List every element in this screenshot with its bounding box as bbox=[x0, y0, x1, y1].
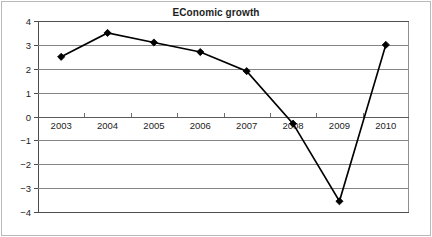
y-axis-label: 2 bbox=[26, 63, 31, 74]
y-axis-label: −4 bbox=[20, 207, 31, 218]
y-axis-label: −3 bbox=[20, 183, 31, 194]
data-point-2010 bbox=[382, 41, 389, 48]
series-line bbox=[61, 33, 386, 201]
y-axis-label: −1 bbox=[20, 135, 31, 146]
chart-title: EConomic growth bbox=[0, 7, 432, 18]
chart-screenshot: EConomic growth 43210−1−2−3−4 2003200420… bbox=[0, 0, 432, 237]
series-layer bbox=[38, 21, 409, 212]
data-point-2005 bbox=[150, 39, 157, 46]
gridline-neg4 bbox=[38, 212, 409, 213]
data-point-2006 bbox=[197, 48, 204, 55]
data-point-2004 bbox=[104, 29, 111, 36]
data-point-2009 bbox=[336, 198, 343, 205]
y-axis-label: 0 bbox=[26, 111, 31, 122]
y-tick-mark bbox=[34, 212, 38, 213]
y-axis-label: 3 bbox=[26, 39, 31, 50]
y-axis-label: −2 bbox=[20, 159, 31, 170]
data-point-2003 bbox=[58, 53, 65, 60]
plot-area: 43210−1−2−3−4 20032004200520062007200820… bbox=[38, 21, 409, 212]
y-axis-label: 4 bbox=[26, 16, 31, 27]
y-axis-label: 1 bbox=[26, 87, 31, 98]
